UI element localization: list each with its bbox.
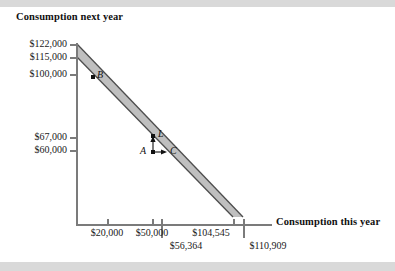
page-bottom-band <box>0 262 395 271</box>
x-tick-label-50000: $50,000 <box>136 227 169 238</box>
y-tick-label-122000: $122,000 <box>30 38 68 49</box>
x-tick-label-104545: $104,545 <box>192 227 230 238</box>
data-point-label-A: A <box>140 145 146 156</box>
y-tick-label-67000: $67,000 <box>35 131 68 142</box>
x-tick-label-20000: $20,000 <box>91 227 124 238</box>
y-tick-label-115000: $115,000 <box>30 51 67 62</box>
y-tick-122000 <box>70 44 77 46</box>
data-point-label-L: L <box>158 128 164 139</box>
y-tick-label-100000: $100,000 <box>30 68 68 79</box>
arrow-A-to-C-head <box>161 149 167 154</box>
y-tick-60000 <box>70 150 77 152</box>
x-tick-20000 <box>107 219 109 225</box>
y-tick-label-60000: $60,000 <box>35 144 68 155</box>
x-tick-label-110909: $110,909 <box>249 240 286 251</box>
budget-constraint-chart: Consumption next year Consumption this y… <box>0 7 395 262</box>
x-axis-title: Consumption this year <box>276 216 380 227</box>
data-point-B <box>91 75 95 79</box>
data-point-A <box>151 150 155 154</box>
page-top-band <box>0 0 395 7</box>
data-point-label-C: C <box>170 145 177 156</box>
lower-budget-line <box>77 57 233 217</box>
x-axis-line <box>76 224 267 226</box>
data-point-label-B: B <box>97 69 103 80</box>
data-point-L <box>151 134 155 138</box>
y-axis-title: Consumption next year <box>16 11 123 22</box>
x-tick-50000 <box>152 219 154 225</box>
x-axis-title-rule <box>258 224 272 226</box>
y-axis-line <box>76 43 78 225</box>
x-tick-104545 <box>233 219 235 225</box>
y-tick-100000 <box>70 74 77 76</box>
x-tick-110909 <box>243 219 245 238</box>
x-tick-label-56364: $56,364 <box>170 240 203 251</box>
y-tick-67000 <box>70 137 77 139</box>
y-tick-115000 <box>70 57 77 59</box>
